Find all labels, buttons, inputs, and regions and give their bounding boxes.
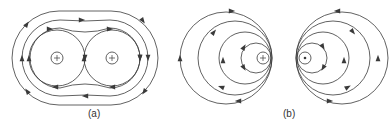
arrowhead-icon [107, 27, 113, 32]
arrowhead-icon [217, 84, 225, 91]
arrowhead-icon [319, 43, 326, 51]
arrowhead-icon [342, 57, 347, 63]
conductor-into-page-icon [257, 52, 269, 64]
caption-b: (b) [283, 108, 295, 119]
conductor-out-of-page-icon [299, 52, 311, 64]
field-line [296, 12, 388, 104]
field-line [180, 12, 272, 104]
field-line [296, 21, 370, 95]
panel-b-opposite-direction-currents [178, 9, 388, 104]
magnetic-field-diagram [0, 0, 392, 130]
arrowhead-icon [23, 87, 31, 95]
arrowhead-icon [178, 55, 183, 61]
arrowhead-icon [221, 57, 226, 63]
caption-a: (a) [88, 108, 100, 119]
panel-a-same-direction-currents [12, 11, 158, 105]
arrowhead-icon [82, 94, 88, 99]
arrowhead-icon [109, 85, 115, 90]
arrowhead-icon [240, 43, 247, 51]
arrowhead-icon [146, 55, 151, 61]
conductor-into-page-icon [106, 52, 118, 64]
field-line [241, 43, 271, 73]
arrowhead-icon [27, 55, 32, 61]
arrowhead-icon [344, 83, 352, 90]
arrowhead-icon [376, 55, 381, 61]
arrowhead-icon [79, 18, 85, 23]
arrowhead-icon [240, 64, 247, 72]
arrowhead-icon [138, 55, 143, 61]
conductor-into-page-icon [51, 52, 63, 64]
arrowhead-icon [20, 55, 25, 61]
